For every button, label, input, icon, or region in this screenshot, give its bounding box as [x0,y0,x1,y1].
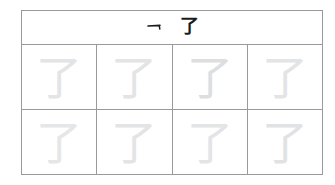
model-character: 了 [180,17,199,36]
practice-cell-1[interactable]: 了 [22,45,97,110]
trace-character: 了 [111,120,157,166]
character-practice-grid: 了 了 了 了 了 了 [21,10,323,175]
horizontal-hook-stroke-icon [145,17,167,39]
trace-character: 了 [36,120,82,166]
practice-row-1: 了 了 了 了 [22,45,323,110]
stroke-order-header-cell: 了 [22,11,323,45]
trace-character: 了 [187,55,233,101]
practice-cell-4[interactable]: 了 [247,45,322,110]
practice-cell-2[interactable]: 了 [97,45,172,110]
trace-character: 了 [187,120,233,166]
practice-cell-7[interactable]: 了 [172,110,247,175]
header-row: 了 [22,11,323,45]
trace-character: 了 [36,55,82,101]
worksheet-page: 了 了 了 了 了 了 [0,0,335,185]
practice-cell-5[interactable]: 了 [22,110,97,175]
trace-character: 了 [262,55,308,101]
trace-character: 了 [262,120,308,166]
practice-cell-8[interactable]: 了 [247,110,322,175]
trace-character: 了 [111,55,157,101]
practice-cell-6[interactable]: 了 [97,110,172,175]
practice-row-2: 了 了 了 了 [22,110,323,175]
practice-cell-3[interactable]: 了 [172,45,247,110]
